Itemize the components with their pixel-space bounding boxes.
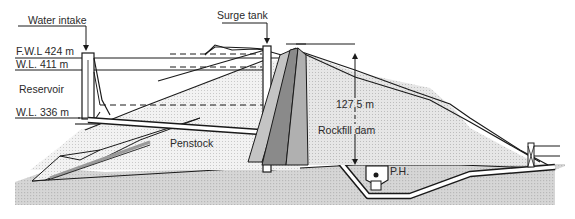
rockfill-dam-label: Rockfill dam xyxy=(318,125,375,136)
high-water-level-label: W.L. 411 m xyxy=(16,59,68,70)
power-house-label: P.H. xyxy=(390,166,409,177)
low-water-level-label: W.L. 336 m xyxy=(16,107,69,118)
rockfill-dam xyxy=(248,44,548,165)
penstock-label: Penstock xyxy=(170,138,213,149)
dam-height-label: 127.5 m xyxy=(336,99,374,110)
water-intake-structure xyxy=(75,53,110,124)
water-intake-label: Water intake xyxy=(28,15,87,26)
reservoir-label: Reservoir xyxy=(19,84,64,95)
cross-section-diagram xyxy=(0,0,575,219)
surge-tank-label: Surge tank xyxy=(217,10,268,21)
full-water-level-label: F.W.L 424 m xyxy=(16,46,74,57)
